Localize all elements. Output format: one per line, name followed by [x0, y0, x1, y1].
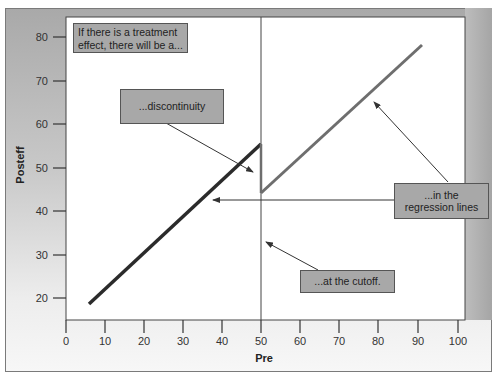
x-tick-label: 40: [216, 335, 228, 347]
y-tick-label: 60: [36, 118, 48, 130]
x-tick-label: 20: [138, 335, 150, 347]
y-axis-title: Posteff: [14, 146, 26, 184]
callout-text: ...at the cutoff.: [314, 275, 380, 288]
y-tick-label: 70: [36, 75, 48, 87]
x-tick-label: 100: [449, 335, 467, 347]
y-axis: [53, 37, 66, 298]
x-tick-label: 50: [255, 335, 267, 347]
y-tick-label: 80: [36, 31, 48, 43]
y-tick-label: 40: [36, 205, 48, 217]
x-tick-label: 70: [333, 335, 345, 347]
y-tick-label: 50: [36, 162, 48, 174]
x-tick-label: 80: [372, 335, 384, 347]
callout-treatment-effect: If there is a treatment effect, there wi…: [73, 23, 188, 53]
x-axis: [66, 320, 458, 333]
callout-text: regression lines: [405, 201, 479, 214]
x-tick-label: 30: [177, 335, 189, 347]
callout-text: If there is a treatment: [78, 26, 183, 39]
x-tick-label: 90: [412, 335, 424, 347]
y-tick-label: 30: [36, 249, 48, 261]
x-axis-title: Pre: [255, 352, 273, 364]
callout-cutoff: ...at the cutoff.: [300, 270, 395, 293]
x-tick-label: 10: [99, 335, 111, 347]
y-tick-label: 20: [36, 292, 48, 304]
x-tick-label: 60: [294, 335, 306, 347]
callout-discontinuity: ...discontinuity: [120, 89, 224, 124]
callout-text: effect, there will be a...: [78, 39, 183, 52]
callout-text: ...in the: [424, 189, 458, 202]
callout-text: ...discontinuity: [139, 100, 206, 113]
callout-regression-lines: ...in the regression lines: [394, 183, 489, 219]
x-tick-label: 0: [63, 335, 69, 347]
